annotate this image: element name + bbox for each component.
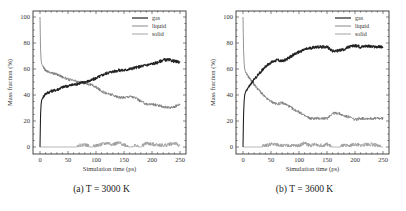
chart-a: 050100150200250020406080100Simulation ti…	[0, 0, 203, 211]
y-axis-label: Mass fraction (%)	[209, 59, 217, 106]
x-axis-label: Simulation time (ps)	[286, 165, 339, 173]
series-solid-line	[243, 142, 383, 147]
y-tick-label: 40	[24, 91, 31, 98]
y-tick-label: 0	[27, 143, 30, 150]
x-tick-label: 0	[241, 156, 244, 163]
y-axis-label: Mass fraction (%)	[6, 59, 14, 106]
y-tick-label: 0	[230, 143, 233, 150]
x-axis-label: Simulation time (ps)	[83, 165, 136, 173]
x-tick-label: 100	[91, 156, 101, 163]
x-tick-label: 50	[65, 156, 72, 163]
y-tick-label: 40	[227, 91, 234, 98]
caption-a: (a) T = 3000 K	[0, 184, 203, 194]
y-tick-label: 100	[223, 13, 233, 20]
x-tick-label: 250	[175, 156, 185, 163]
panel-b: 050100150200250020406080100Simulation ti…	[203, 0, 406, 211]
legend-solid-label: solid	[152, 31, 164, 37]
x-tick-label: 250	[378, 156, 388, 163]
legend-liquid-label: liquid	[355, 23, 369, 29]
legend-liquid-label: liquid	[152, 23, 166, 29]
y-tick-label: 60	[227, 65, 234, 72]
x-tick-label: 150	[322, 156, 332, 163]
panel-a: 050100150200250020406080100Simulation ti…	[0, 0, 203, 211]
y-tick-label: 20	[227, 117, 234, 124]
y-tick-label: 20	[24, 117, 31, 124]
x-tick-label: 200	[350, 156, 360, 163]
legend-gas-label: gas	[152, 15, 161, 21]
legend-gas-label: gas	[355, 15, 364, 21]
x-tick-label: 200	[147, 156, 157, 163]
y-tick-label: 80	[227, 39, 234, 46]
chart-b: 050100150200250020406080100Simulation ti…	[203, 0, 406, 211]
x-tick-label: 50	[268, 156, 275, 163]
series-gas-line	[40, 59, 180, 147]
y-tick-label: 60	[24, 65, 31, 72]
y-tick-label: 100	[20, 13, 30, 20]
series-solid-line	[40, 141, 180, 147]
x-tick-label: 150	[119, 156, 129, 163]
caption-b: (b) T = 3600 K	[203, 184, 406, 194]
x-tick-label: 0	[38, 156, 41, 163]
legend-solid-label: solid	[355, 31, 367, 37]
y-tick-label: 80	[24, 39, 31, 46]
x-tick-label: 100	[294, 156, 304, 163]
